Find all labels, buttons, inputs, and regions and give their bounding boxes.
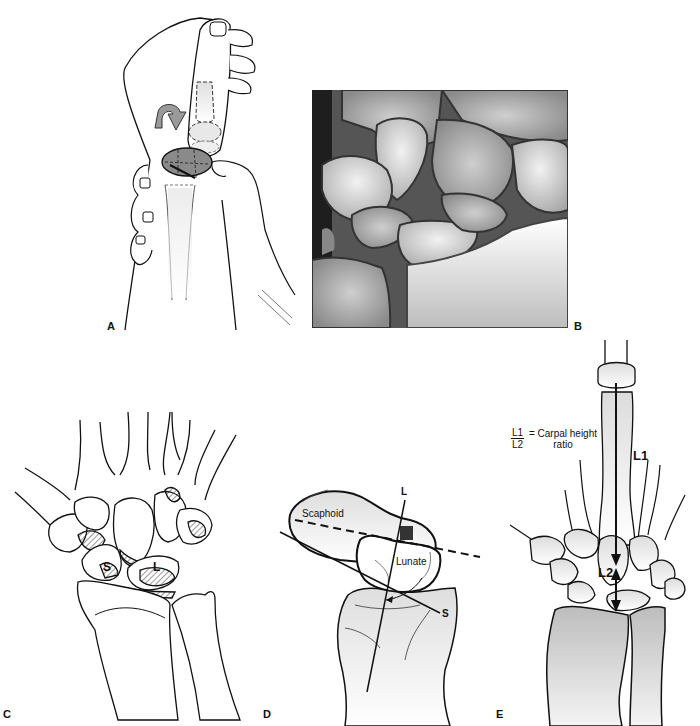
ratio-text-line1: = Carpal height bbox=[529, 428, 597, 439]
xray-image bbox=[312, 90, 568, 328]
ratio-denominator: L2 bbox=[511, 439, 524, 450]
panel-c: S L C bbox=[0, 400, 260, 726]
panel-b-radiograph bbox=[312, 90, 568, 328]
carpal-height-ratio-formula: L1 L2 = Carpal height ratio bbox=[511, 427, 597, 450]
label-l2: L2 bbox=[598, 565, 613, 580]
label-lunate: Lunate bbox=[396, 556, 427, 567]
panel-label-a: A bbox=[107, 320, 115, 332]
carpal-height-diagram bbox=[490, 340, 700, 726]
panel-d: Scaphoid Lunate L S D bbox=[260, 460, 500, 726]
panel-label-d: D bbox=[263, 708, 271, 720]
panel-label-b: B bbox=[574, 320, 582, 332]
ratio-text-line2: ratio bbox=[529, 439, 597, 450]
panel-a: A bbox=[0, 0, 300, 340]
carpus-dorsal-illustration bbox=[0, 400, 260, 726]
label-scaphoid: Scaphoid bbox=[302, 508, 344, 519]
label-scaphoid-axis-s: S bbox=[442, 608, 449, 619]
panel-label-c: C bbox=[3, 708, 11, 720]
scapholunate-angle-diagram bbox=[260, 460, 500, 726]
label-lunate-axis-l: L bbox=[401, 486, 407, 497]
panel-e: L1 L2 E bbox=[490, 340, 700, 726]
panel-label-e: E bbox=[496, 708, 503, 720]
ratio-fraction: L1 L2 bbox=[511, 427, 524, 450]
ratio-numerator: L1 bbox=[511, 427, 524, 439]
label-s-scaphoid: S bbox=[103, 560, 111, 574]
label-l-lunate: L bbox=[153, 560, 160, 574]
hand-wrist-illustration bbox=[0, 0, 300, 340]
label-l1: L1 bbox=[633, 448, 648, 463]
